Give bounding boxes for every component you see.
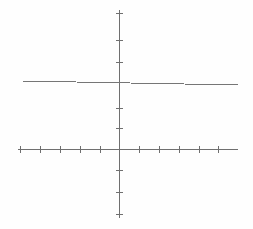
plot-background (0, 0, 253, 229)
coordinate-plane-figure (0, 0, 253, 229)
axes-svg (0, 0, 253, 229)
